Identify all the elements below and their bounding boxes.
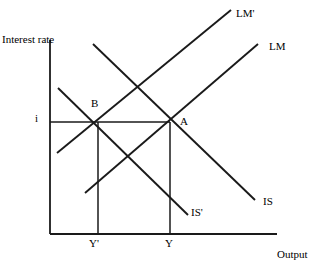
equilibrium-point-a-label: A <box>180 116 188 127</box>
y-axis-title: Interest rate <box>2 34 54 45</box>
lm-curve <box>85 44 258 193</box>
x-axis-tick-y: Y <box>165 238 173 249</box>
x-axis-title: Output <box>277 249 308 260</box>
y-axis-tick-i: i <box>35 113 38 124</box>
is-curve-label: IS <box>263 196 273 207</box>
lm-prime-curve-label: LM' <box>236 8 254 19</box>
equilibrium-point-b-label: B <box>91 98 98 109</box>
lm-prime-curve <box>57 10 231 153</box>
x-axis-tick-y-prime: Y' <box>89 238 99 249</box>
is-lm-diagram: Interest rate Output i Y' Y LM' LM IS' I… <box>0 0 319 268</box>
lm-curve-label: LM <box>269 41 286 52</box>
is-prime-curve-label: IS' <box>191 207 203 218</box>
is-prime-curve <box>58 88 188 215</box>
